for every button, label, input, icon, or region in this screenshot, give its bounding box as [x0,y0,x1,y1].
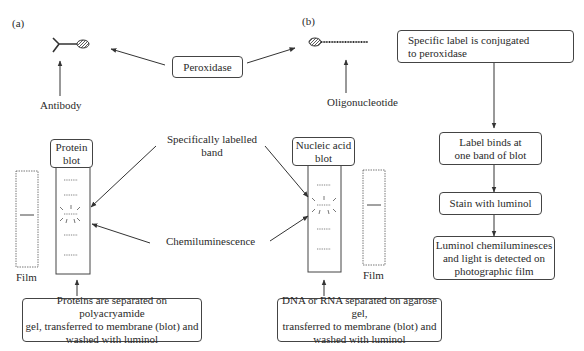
protein-film-label: Film [16,271,37,284]
flow-step-4: Luminol chemiluminesces and light is det… [433,236,555,280]
chemiluminescence-label: Chemiluminescence [166,235,255,248]
nucleic-film [363,170,385,265]
arrow-chemi-protein [92,224,150,243]
oligonucleotide-label: Oligonucleotide [327,96,398,109]
arrow-chemi-nucleic [270,216,308,241]
nucleic-blot-strip [308,164,341,272]
nucleic-film-label: Film [363,269,384,282]
chemiluminescence-burst-protein [60,205,80,223]
peroxidase-box: Peroxidase [172,56,243,78]
arrow-peroxidase-b [247,48,295,63]
protein-blot-strip [56,167,90,274]
nucleic-blot-title: Nucleic acid blot [292,137,355,166]
protein-caption-box: Proteins are separated on polyacryamide … [22,298,202,342]
peroxidase-label: Peroxidase [183,61,231,74]
flow-step-1: Specific label is conjugated to peroxida… [397,30,574,63]
nucleic-caption-box: DNA or RNA separated on agarose gel, tra… [277,298,442,342]
antibody-icon [53,38,89,52]
panel-label-b: (b) [302,15,315,28]
flow-step-3: Stain with luminol [439,192,542,215]
oligonucleotide-icon [309,38,368,46]
antibody-label: Antibody [40,99,82,112]
panel-label-a: (a) [12,17,24,30]
flow-step-2: Label binds at one band of blot [439,132,542,165]
specifically-labelled-band-label: Specifically labelled band [166,133,258,159]
protein-film [16,171,38,267]
arrow-peroxidase-a [111,49,165,65]
arrow-band-protein [91,146,156,207]
protein-blot-title: Protein blot [50,139,93,168]
